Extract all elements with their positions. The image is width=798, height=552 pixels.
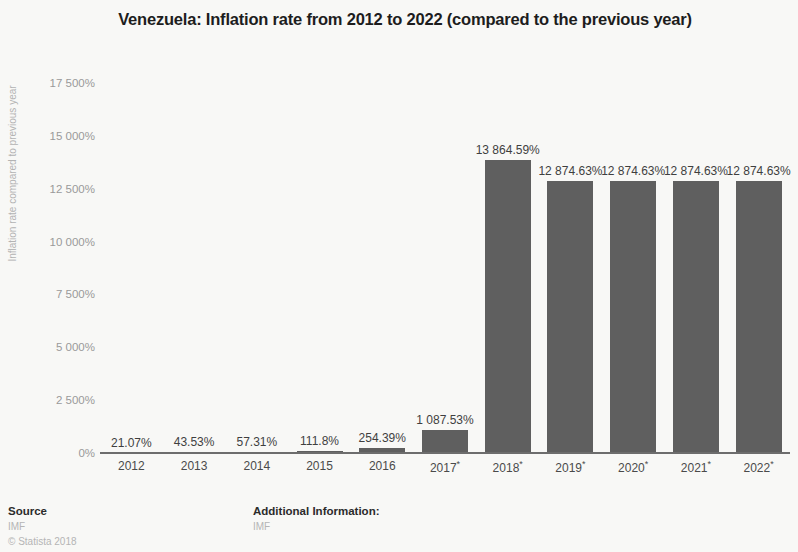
footer-info-value: IMF [253, 520, 379, 535]
bar-value-label: 12 874.63% [727, 164, 791, 178]
bar-value-label: 12 874.63% [538, 164, 602, 178]
x-axis: 201220132014201520162017*2018*2019*2020*… [100, 459, 790, 481]
bar-value-label: 111.8% [300, 434, 339, 448]
bar-value-label: 254.39% [359, 431, 406, 445]
x-axis-tick-label: 2022* [744, 459, 774, 475]
x-axis-tick-label: 2021* [681, 459, 711, 475]
x-axis-tick-label: 2012 [118, 459, 145, 473]
y-axis-tick-label: 0% [3, 447, 95, 459]
x-axis-tick-label: 2014 [243, 459, 270, 473]
y-axis-tick-label: 7 500% [3, 288, 95, 300]
x-axis-tick-label: 2013 [181, 459, 208, 473]
bar-value-label: 57.31% [236, 435, 277, 449]
x-axis-tick-label: 2020* [618, 459, 648, 475]
bar-value-label: 43.53% [174, 435, 215, 449]
bar[interactable] [547, 181, 593, 453]
bar-value-label: 13 864.59% [476, 143, 540, 157]
x-axis-tick-label: 2015 [306, 459, 333, 473]
x-axis-tick-label: 2019* [555, 459, 585, 475]
bar[interactable] [736, 181, 782, 453]
bar-value-label: 21.07% [111, 436, 152, 450]
bar[interactable] [485, 160, 531, 453]
bar[interactable] [673, 181, 719, 453]
bar-value-label: 12 874.63% [601, 164, 665, 178]
x-axis-tick-label: 2017* [430, 459, 460, 475]
footer-info-heading: Additional Information: [253, 505, 379, 517]
footer-info-column: Additional Information: IMF [253, 505, 379, 535]
bar-value-label: 12 874.63% [664, 164, 728, 178]
y-axis-tick-label: 5 000% [3, 341, 95, 353]
x-axis-tick-label: 2016 [369, 459, 396, 473]
bars-layer: 21.07%43.53%57.31%111.8%254.39%1 087.53%… [100, 75, 790, 453]
footer-source-column: Source IMF © Statista 2018 [8, 505, 77, 549]
x-axis-line [100, 452, 790, 454]
bar-value-label: 1 087.53% [416, 413, 473, 427]
page-title: Venezuela: Inflation rate from 2012 to 2… [60, 8, 750, 30]
y-axis-tick-label: 2 500% [3, 394, 95, 406]
bar[interactable] [422, 430, 468, 453]
bar[interactable] [610, 181, 656, 453]
footer-source-value: IMF [8, 520, 77, 535]
footer: Source IMF © Statista 2018 Additional In… [0, 505, 798, 552]
footer-copyright: © Statista 2018 [8, 535, 77, 550]
footer-source-heading: Source [8, 505, 77, 517]
x-axis-tick-label: 2018* [493, 459, 523, 475]
y-axis-title: Inflation rate compared to previous year [7, 64, 18, 284]
